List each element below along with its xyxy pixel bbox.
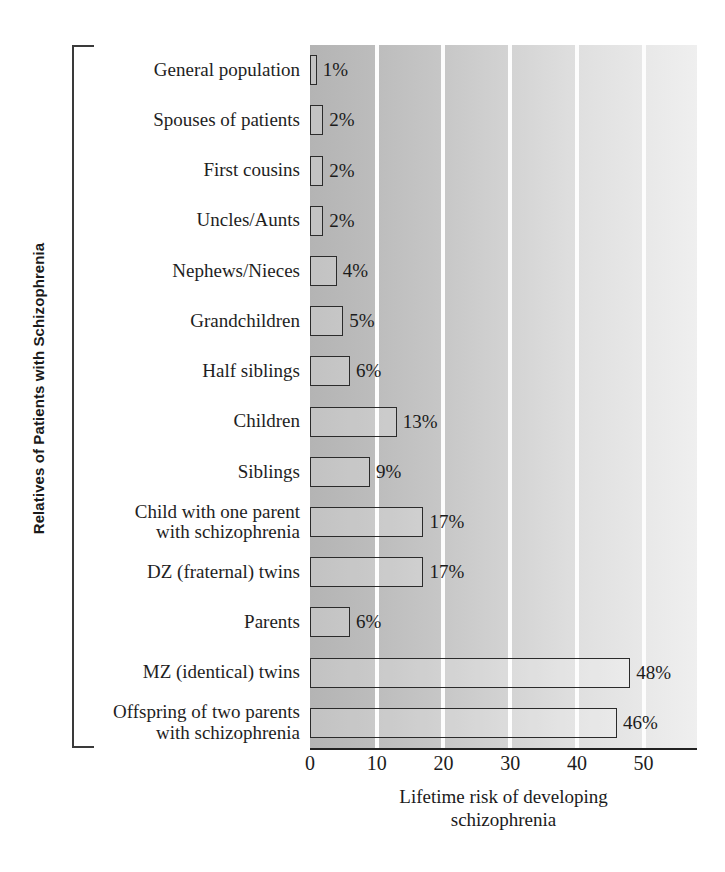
category-label: First cousins [96,160,300,181]
bar-value-label: 4% [343,261,368,280]
x-tick-label: 50 [634,752,654,775]
category-label: MZ (identical) twins [96,662,300,683]
x-axis-title: Lifetime risk of developingschizophrenia [310,786,697,832]
bar-value-label: 2% [329,211,354,230]
bar[interactable] [310,457,370,487]
gridline [441,45,445,748]
bar-row: 13% [310,407,697,437]
category-label-line: Parents [244,612,300,633]
bar[interactable] [310,206,323,236]
bar[interactable] [310,507,423,537]
bar-value-label: 48% [636,663,671,682]
x-axis-title-line: schizophrenia [310,809,697,832]
bar-row: 9% [310,457,697,487]
bar[interactable] [310,356,350,386]
bar-row: 4% [310,256,697,286]
category-label: Uncles/Aunts [96,210,300,231]
bar-row: 2% [310,156,697,186]
category-label: Siblings [96,461,300,482]
category-label-line: Offspring of two parents [113,702,300,723]
bar-row: 48% [310,658,697,688]
bar[interactable] [310,407,397,437]
bar-row: 1% [310,55,697,85]
category-label: Nephews/Nieces [96,260,300,281]
bar-row: 17% [310,557,697,587]
plot-area: 1%2%2%2%4%5%6%13%9%17%17%6%48%46% [310,45,697,750]
gridline [508,45,512,748]
gridline [642,45,646,748]
category-label-line: Nephews/Nieces [172,261,300,282]
bar-value-label: 6% [356,612,381,631]
category-label-line: with schizophrenia [156,522,300,543]
bar-value-label: 17% [429,562,464,581]
category-label: Grandchildren [96,311,300,332]
bar[interactable] [310,306,343,336]
category-label-line: MZ (identical) twins [143,662,300,683]
x-tick-label: 30 [500,752,520,775]
bar[interactable] [310,55,317,85]
y-axis-title: Relatives of Patients with Schizophrenia [30,179,47,599]
category-label-line: Half siblings [202,361,300,382]
bar-value-label: 2% [329,161,354,180]
bar-value-label: 6% [356,361,381,380]
bar-chart-figure: Relatives of Patients with Schizophrenia… [0,0,725,872]
category-label-line: Child with one parent [135,502,300,523]
bar-value-label: 9% [376,462,401,481]
bar[interactable] [310,607,350,637]
bar[interactable] [310,156,323,186]
category-label: Children [96,411,300,432]
bar-row: 2% [310,206,697,236]
category-bracket [72,45,94,748]
x-axis-tick-labels: 01020304050 [310,752,697,782]
category-label-column: General populationSpouses of patientsFir… [96,45,306,748]
category-label-line: Spouses of patients [153,110,300,131]
bar-row: 6% [310,607,697,637]
bar-row: 2% [310,105,697,135]
category-label-line: First cousins [203,160,300,181]
category-label-line: Grandchildren [190,311,300,332]
category-label-line: Uncles/Aunts [197,210,300,231]
category-label: DZ (fraternal) twins [96,562,300,583]
category-label-line: with schizophrenia [156,723,300,744]
bar-value-label: 17% [429,512,464,531]
bar[interactable] [310,708,617,738]
bar-value-label: 1% [323,60,348,79]
category-label-line: Children [234,411,301,432]
bar-value-label: 13% [403,412,438,431]
category-label: Spouses of patients [96,110,300,131]
category-label: Half siblings [96,361,300,382]
category-label: Parents [96,612,300,633]
bar-row: 17% [310,507,697,537]
bar-value-label: 5% [349,311,374,330]
x-tick-label: 20 [433,752,453,775]
bar[interactable] [310,658,630,688]
category-label: General population [96,60,300,81]
bar[interactable] [310,557,423,587]
x-tick-label: 0 [305,752,315,775]
category-label-line: General population [154,60,300,81]
gridline [375,45,379,748]
bar[interactable] [310,105,323,135]
bar[interactable] [310,256,337,286]
category-label: Child with one parentwith schizophrenia [96,501,300,543]
bar-value-label: 46% [623,713,658,732]
bar-row: 6% [310,356,697,386]
bar-row: 5% [310,306,697,336]
category-label-line: Siblings [238,462,300,483]
bar-row: 46% [310,708,697,738]
x-axis-title-line: Lifetime risk of developing [310,786,697,809]
category-label: Offspring of two parentswith schizophren… [96,702,300,744]
x-tick-label: 10 [367,752,387,775]
category-label-line: DZ (fraternal) twins [147,562,300,583]
bar-value-label: 2% [329,110,354,129]
x-tick-label: 40 [567,752,587,775]
gridline [575,45,579,748]
